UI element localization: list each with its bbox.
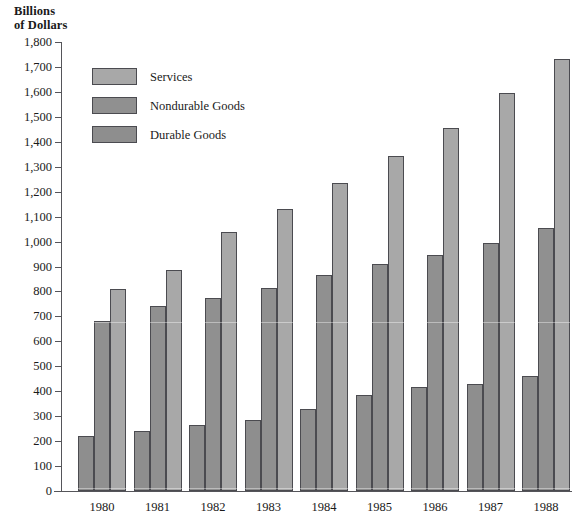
bar-group — [300, 42, 348, 491]
y-axis-tick — [55, 391, 62, 392]
bar — [483, 243, 499, 491]
bar — [372, 264, 388, 491]
x-axis-tick-label: 1981 — [128, 500, 188, 514]
y-axis-tick — [55, 242, 62, 243]
legend-item-label: Services — [150, 69, 192, 85]
y-axis-tick — [55, 67, 62, 68]
y-axis-tick-label-text: 1,400 — [2, 136, 52, 148]
y-axis-tick-label-text: 700 — [2, 310, 52, 322]
y-axis-tick-label: 600 — [0, 335, 52, 347]
y-axis-tick — [55, 441, 62, 442]
y-axis-tick — [55, 366, 62, 367]
x-axis-tick-label: 1983 — [239, 500, 299, 514]
y-axis-tick — [55, 167, 62, 168]
y-axis-tick-label-text: 1,000 — [2, 236, 52, 248]
y-axis-tick-label: 1,500 — [0, 111, 52, 123]
y-axis-tick-label: 1,300 — [0, 161, 52, 173]
y-axis-tick — [55, 142, 62, 143]
y-axis-tick-label-text: 200 — [2, 435, 52, 447]
y-axis-tick-label: 700 — [0, 310, 52, 322]
x-axis-tick-label: 1985 — [350, 500, 410, 514]
y-axis-tick — [55, 291, 62, 292]
y-axis-tick-label-text: 1,500 — [2, 111, 52, 123]
y-axis-tick — [55, 341, 62, 342]
bar — [427, 255, 443, 491]
bar — [94, 321, 110, 491]
bar — [221, 232, 237, 491]
bar — [356, 395, 372, 491]
bar — [245, 420, 261, 491]
y-axis-tick-label: 200 — [0, 435, 52, 447]
y-axis-tick-label: 100 — [0, 460, 52, 472]
y-axis-tick — [55, 267, 62, 268]
y-axis-tick — [55, 42, 62, 43]
bar — [261, 288, 277, 491]
bar-group — [411, 42, 459, 491]
y-axis-tick-label: 1,400 — [0, 136, 52, 148]
y-axis-tick-label-text: 500 — [2, 360, 52, 372]
y-axis-tick-label-text: 100 — [2, 460, 52, 472]
legend-item-label: Durable Goods — [150, 127, 226, 143]
axis-title-line-1: Billions — [14, 4, 55, 18]
y-axis-tick — [55, 466, 62, 467]
y-axis-tick-label: 0 — [0, 485, 52, 497]
y-axis-tick-label-text: 0 — [2, 485, 52, 497]
chart-axis-title: Billions of Dollars — [14, 4, 134, 32]
bar — [166, 270, 182, 491]
bar — [388, 156, 404, 492]
x-axis-tick-label: 1984 — [294, 500, 354, 514]
y-axis-tick — [55, 491, 62, 492]
bar — [554, 59, 570, 491]
bar — [332, 183, 348, 491]
y-axis-tick — [55, 192, 62, 193]
bar — [443, 128, 459, 491]
legend-item: Durable Goods — [92, 126, 272, 150]
bar — [522, 376, 538, 491]
y-axis-tick-label: 400 — [0, 385, 52, 397]
legend-item-label: Nondurable Goods — [150, 98, 245, 114]
legend-item: Nondurable Goods — [92, 97, 272, 121]
y-axis-tick — [55, 217, 62, 218]
y-axis-tick — [55, 92, 62, 93]
legend-swatch — [92, 97, 137, 114]
axis-title-line-2: of Dollars — [14, 18, 134, 32]
x-axis-tick-label: 1980 — [72, 500, 132, 514]
bar — [467, 384, 483, 491]
legend-swatch — [92, 126, 137, 143]
y-axis-tick-label-text: 1,200 — [2, 186, 52, 198]
y-axis-tick-label: 500 — [0, 360, 52, 372]
x-axis-tick-label: 1988 — [516, 500, 576, 514]
y-axis-tick-label-text: 1,100 — [2, 211, 52, 223]
bar-group — [356, 42, 404, 491]
bar — [411, 387, 427, 491]
y-axis-tick-label-text: 400 — [2, 385, 52, 397]
bar-chart: Billions of Dollars 1,8001,7001,6001,500… — [0, 0, 577, 523]
bar-group — [467, 42, 515, 491]
y-axis-tick-label-text: 1,700 — [2, 61, 52, 73]
y-axis-tick-label-text: 1,800 — [2, 36, 52, 48]
x-axis-tick-label: 1982 — [183, 500, 243, 514]
bar — [538, 228, 554, 491]
bar — [300, 409, 316, 491]
y-axis-tick-label: 1,600 — [0, 86, 52, 98]
y-axis-tick-label-text: 900 — [2, 261, 52, 273]
y-axis-tick-label: 1,200 — [0, 186, 52, 198]
x-axis-line — [54, 491, 572, 492]
y-axis-tick — [55, 316, 62, 317]
legend-swatch — [92, 68, 137, 85]
chart-legend: ServicesNondurable GoodsDurable Goods — [92, 68, 272, 155]
x-axis-tick-label: 1987 — [461, 500, 521, 514]
y-axis-tick-label-text: 800 — [2, 285, 52, 297]
x-axis-tick-label: 1986 — [405, 500, 465, 514]
y-axis-tick-label: 1,100 — [0, 211, 52, 223]
bar — [499, 93, 515, 491]
y-axis-tick — [55, 416, 62, 417]
y-axis-tick-label: 1,700 — [0, 61, 52, 73]
legend-item: Services — [92, 68, 272, 92]
y-axis-tick-label: 1,000 — [0, 236, 52, 248]
y-axis-tick-label: 1,800 — [0, 36, 52, 48]
bar — [205, 298, 221, 491]
y-axis-tick — [55, 117, 62, 118]
y-axis-tick-label: 800 — [0, 285, 52, 297]
bar — [134, 431, 150, 491]
